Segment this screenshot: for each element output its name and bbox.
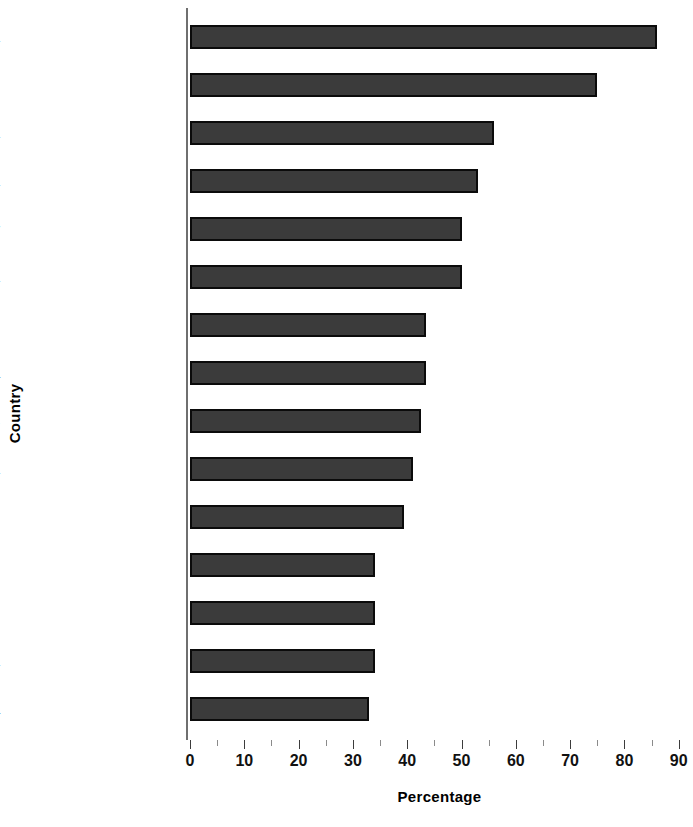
x-tick-label: 0 bbox=[170, 752, 210, 770]
bar bbox=[190, 697, 369, 721]
bar bbox=[190, 601, 375, 625]
x-tick-label: 70 bbox=[550, 752, 590, 770]
bar-row: Ukraine bbox=[186, 541, 693, 589]
bar-row: Kazakhstan bbox=[186, 493, 693, 541]
bar-row: Poland bbox=[186, 61, 693, 109]
bar-row: Romania bbox=[186, 349, 693, 397]
x-tick-mark-minor bbox=[543, 740, 544, 746]
bar bbox=[190, 505, 404, 529]
bar bbox=[190, 265, 462, 289]
x-tick-label: 10 bbox=[224, 752, 264, 770]
bar bbox=[190, 361, 426, 385]
x-tick-label: 60 bbox=[496, 752, 536, 770]
bar bbox=[190, 217, 462, 241]
x-tick-mark-minor bbox=[326, 740, 327, 746]
x-tick-label: 30 bbox=[333, 752, 373, 770]
x-tick-mark-minor bbox=[597, 740, 598, 746]
bar-row: Lithuania bbox=[186, 445, 693, 493]
x-tick-label: 20 bbox=[279, 752, 319, 770]
x-tick-mark bbox=[570, 740, 571, 749]
x-tick-mark bbox=[407, 740, 408, 749]
plot-area: SloveniaPolandAlbaniaLatviaHungaryCzecho… bbox=[186, 0, 693, 740]
bar bbox=[190, 409, 421, 433]
bar bbox=[190, 121, 494, 145]
bar bbox=[190, 25, 657, 49]
bar-row: Estonia bbox=[186, 685, 693, 733]
bar-row: Kyrgyzstan bbox=[186, 589, 693, 637]
bar-row: Slovenia bbox=[186, 13, 693, 61]
x-tick-label: 90 bbox=[659, 752, 693, 770]
x-tick-mark bbox=[299, 740, 300, 749]
x-tick-mark-minor bbox=[652, 740, 653, 746]
bar bbox=[190, 553, 375, 577]
x-axis: 0102030405060708090 Percentage bbox=[186, 740, 693, 827]
bar bbox=[190, 457, 413, 481]
x-tick-mark-minor bbox=[489, 740, 490, 746]
bar-row: Belarus bbox=[186, 397, 693, 445]
x-tick-mark-minor bbox=[271, 740, 272, 746]
x-tick-mark bbox=[516, 740, 517, 749]
bar-row: Bulgaria bbox=[186, 637, 693, 685]
x-tick-mark bbox=[624, 740, 625, 749]
x-tick-label: 40 bbox=[387, 752, 427, 770]
bar bbox=[190, 313, 426, 337]
x-axis-title: Percentage bbox=[186, 788, 693, 805]
x-tick-mark bbox=[679, 740, 680, 749]
bar-row: Hungary bbox=[186, 205, 693, 253]
bar bbox=[190, 73, 597, 97]
bar bbox=[190, 649, 375, 673]
y-axis-title: Country bbox=[0, 0, 28, 827]
bar bbox=[190, 169, 478, 193]
bar-row: Czechoslovakia bbox=[186, 253, 693, 301]
x-tick-label: 50 bbox=[442, 752, 482, 770]
x-tick-mark-minor bbox=[434, 740, 435, 746]
bar-row: Latvia bbox=[186, 157, 693, 205]
x-tick-mark-minor bbox=[217, 740, 218, 746]
x-tick-mark bbox=[462, 740, 463, 749]
bar-chart: Country SloveniaPolandAlbaniaLatviaHunga… bbox=[0, 0, 693, 827]
bar-row: Albania bbox=[186, 109, 693, 157]
bar-row: Uzbekistan bbox=[186, 301, 693, 349]
x-tick-label: 80 bbox=[604, 752, 644, 770]
x-tick-mark bbox=[244, 740, 245, 749]
x-tick-mark bbox=[190, 740, 191, 749]
x-tick-mark bbox=[353, 740, 354, 749]
x-tick-mark-minor bbox=[380, 740, 381, 746]
